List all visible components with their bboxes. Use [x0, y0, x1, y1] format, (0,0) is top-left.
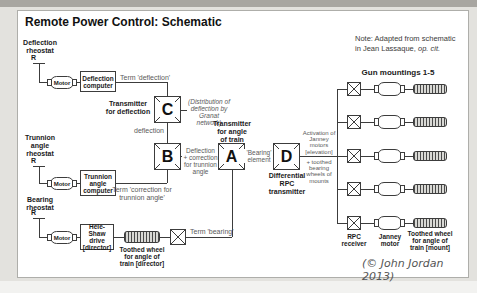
toothed-wheel-director-label: Toothed wheel for angle of train [direct…	[114, 246, 170, 267]
janney-motor-icon	[377, 82, 402, 96]
transmitter-box-a: A	[218, 143, 245, 170]
deflection-rheostat-label: Deflection rheostat	[12, 39, 68, 55]
page-title: Remote Power Control: Schematic	[25, 15, 222, 29]
motor-symbol: Motor	[50, 76, 74, 89]
rpc-receiver-icon	[347, 115, 361, 129]
transmitter-c-label: Transmitter for deflection	[104, 100, 152, 116]
toothed-wheel-icon	[413, 151, 447, 161]
source-note-line2-text: in Jean Lassaque,	[355, 44, 418, 53]
motor-symbol: Motor	[50, 231, 74, 244]
transmitter-box-c: C	[154, 96, 181, 123]
wire-label-term-bearing: Term 'bearing'	[190, 228, 234, 235]
janney-motor-icon	[377, 216, 402, 230]
toothed-wheel-icon	[413, 184, 447, 194]
rpc-receiver-icon	[347, 149, 361, 163]
toothed-wheel-icon	[413, 117, 447, 127]
rheostat-icon: R	[31, 54, 41, 62]
wire-label-activation2: + toothed bearing wheels of mounts	[302, 159, 336, 184]
janney-motor-icon	[377, 149, 402, 163]
wire-label-activation: Activation of Janney motors [elevation]	[302, 130, 336, 155]
toothed-wheel-mount-label: Toothed wheel for angle of train [mount]	[402, 230, 458, 251]
transmitter-box-d: D	[273, 143, 300, 170]
gun-mountings-header: Gun mountings 1-5	[346, 69, 450, 77]
rheostat-icon: R	[31, 209, 41, 217]
wire-label-bearing-element: 'Bearing' element	[244, 149, 274, 163]
rheostat-icon: R	[31, 157, 41, 165]
toothed-wheel-icon	[124, 231, 160, 243]
bearing-transmitter-icon	[170, 229, 186, 245]
source-note-line1: Note: Adapted from schematic	[355, 34, 455, 44]
box-letter-d: D	[279, 148, 295, 166]
rpc-receiver-icon	[347, 182, 361, 196]
source-note-line2: in Jean Lassaque, op. cit.	[355, 44, 455, 54]
transmitter-a-label: Transmitter for angle of train	[204, 120, 260, 144]
transmitter-box-b: B	[154, 143, 181, 170]
rpc-receiver-icon	[347, 82, 361, 96]
motor-symbol: Motor	[50, 177, 74, 190]
source-note: Note: Adapted from schematic in Jean Las…	[355, 34, 455, 54]
janney-motor-icon	[377, 115, 402, 129]
trunnion-computer-box: Trunnion angle computer	[80, 170, 116, 196]
box-letter-a: A	[224, 148, 240, 166]
toothed-wheel-icon	[413, 218, 447, 228]
deflection-computer-box: Deflection computer	[80, 71, 116, 92]
wire-label-term-trunnion: Term 'correction for trunnion angle'	[112, 186, 172, 201]
box-letter-c: C	[160, 101, 176, 119]
janney-motor-icon	[377, 182, 402, 196]
trunnion-rheostat-label: Trunnion angle rheostat	[12, 134, 68, 158]
wire-label-b-output: Deflection + correction for trunnion ang…	[182, 147, 219, 175]
rpc-receiver-icon	[347, 216, 361, 230]
box-letter-b: B	[160, 148, 176, 166]
wire-label-deflection: deflection	[130, 127, 164, 134]
source-note-citation: op. cit.	[418, 44, 440, 53]
motor-label: Motor	[54, 181, 71, 187]
motor-label: Motor	[54, 235, 71, 241]
copyright-note: (© John Jordan 2013)	[362, 257, 477, 283]
hele-shaw-drive-box: Hele-Shaw drive [director]	[80, 224, 114, 250]
schematic-scan: Remote Power Control: Schematic Note: Ad…	[0, 0, 477, 293]
wire-label-term-deflection: Term 'deflection'	[120, 74, 170, 81]
toothed-wheel-icon	[413, 84, 447, 94]
motor-label: Motor	[54, 80, 71, 86]
